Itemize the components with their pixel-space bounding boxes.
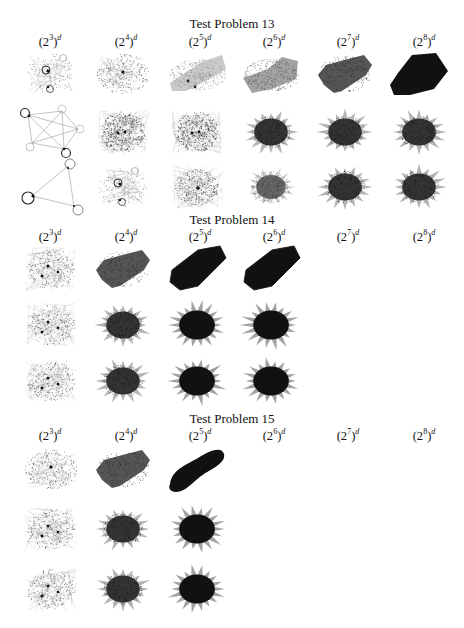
graph-plot-s0-r0-c2 xyxy=(164,45,230,103)
graph-plot-s0-r1-c3 xyxy=(238,103,304,161)
graph-plot-s0-r2-c2 xyxy=(164,158,230,216)
graph-plot-s0-r2-c1 xyxy=(90,158,156,216)
graph-plot-s1-r1-c3 xyxy=(238,296,304,354)
graph-plot-s2-r1-c2 xyxy=(164,500,230,558)
graph-plot-s2-r2-c1 xyxy=(90,560,156,618)
graph-plot-s0-r0-c1 xyxy=(90,45,156,103)
graph-plot-s1-r2-c0 xyxy=(18,352,84,410)
graph-plot-s1-r2-c2 xyxy=(164,352,230,410)
graph-plot-s0-r1-c2 xyxy=(164,103,230,161)
graph-plot-s0-r2-c3 xyxy=(238,158,304,216)
graph-plot-s0-r2-c0 xyxy=(18,158,84,216)
column-label-2-pow-8: (28)d xyxy=(394,425,454,443)
graph-plot-s0-r0-c4 xyxy=(312,45,378,103)
graph-plot-s0-r0-c0 xyxy=(18,45,84,103)
graph-plot-s2-r0-c0 xyxy=(18,440,84,498)
graph-plot-s2-r0-c2 xyxy=(164,440,230,498)
graph-plot-s2-r1-c1 xyxy=(90,500,156,558)
graph-plot-s1-r2-c3 xyxy=(238,352,304,410)
graph-plot-s2-r0-c1 xyxy=(90,440,156,498)
graph-plot-s0-r1-c0 xyxy=(18,103,84,161)
graph-plot-s1-r0-c0 xyxy=(18,240,84,298)
graph-plot-s1-r2-c1 xyxy=(90,352,156,410)
column-label-2-pow-6: (26)d xyxy=(244,425,304,443)
column-label-2-pow-7: (27)d xyxy=(318,226,378,244)
graph-plot-s0-r0-c5 xyxy=(386,45,452,103)
section-title-13: Test Problem 13 xyxy=(0,17,464,31)
graph-plot-s0-r2-c5 xyxy=(386,158,452,216)
graph-plot-s1-r1-c0 xyxy=(18,296,84,354)
section-title-15: Test Problem 15 xyxy=(0,412,464,426)
graph-plot-s0-r0-c3 xyxy=(238,45,304,103)
graph-plot-s1-r1-c2 xyxy=(164,296,230,354)
column-label-2-pow-8: (28)d xyxy=(394,226,454,244)
graph-plot-s0-r1-c5 xyxy=(386,103,452,161)
graph-plot-s0-r2-c4 xyxy=(312,158,378,216)
graph-plot-s1-r0-c3 xyxy=(238,240,304,298)
graph-plot-s1-r1-c1 xyxy=(90,296,156,354)
graph-plot-s2-r2-c0 xyxy=(18,560,84,618)
graph-plot-s2-r1-c0 xyxy=(18,500,84,558)
column-label-2-pow-7: (27)d xyxy=(318,425,378,443)
graph-plot-s0-r1-c4 xyxy=(312,103,378,161)
graph-plot-s1-r0-c1 xyxy=(90,240,156,298)
graph-plot-s2-r2-c2 xyxy=(164,560,230,618)
graph-plot-s0-r1-c1 xyxy=(90,103,156,161)
graph-plot-s1-r0-c2 xyxy=(164,240,230,298)
